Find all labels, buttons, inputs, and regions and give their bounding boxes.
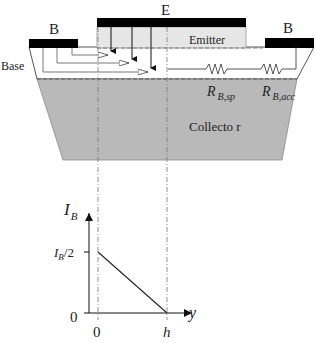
collector-region-label: Collecto r xyxy=(189,119,241,134)
base-contact-left xyxy=(29,39,78,48)
emitter-region xyxy=(97,27,265,48)
y-tick-half-label: IB/2 xyxy=(53,245,74,262)
bjt-diagram: E B B Base Emitter Collecto r RB,sp RB,a… xyxy=(0,0,316,343)
emitter-contact-label: E xyxy=(161,2,170,18)
base-region-label: Base xyxy=(1,59,24,73)
x-tick-zero-label: 0 xyxy=(93,324,101,340)
y-axis-label: IB xyxy=(63,200,78,222)
x-axis-label: y xyxy=(187,304,197,322)
y-tick-zero-label: 0 xyxy=(70,309,78,325)
x-tick-h-label: h xyxy=(163,324,171,340)
base-contact-right xyxy=(265,38,314,48)
current-distribution-graph: IB IB/2 0 0 h y xyxy=(53,200,197,340)
base-contact-left-label: B xyxy=(49,21,59,37)
current-line xyxy=(98,252,167,313)
base-contact-right-label: B xyxy=(283,20,293,36)
emitter-region-label: Emitter xyxy=(189,33,225,47)
emitter-contact xyxy=(97,18,246,27)
